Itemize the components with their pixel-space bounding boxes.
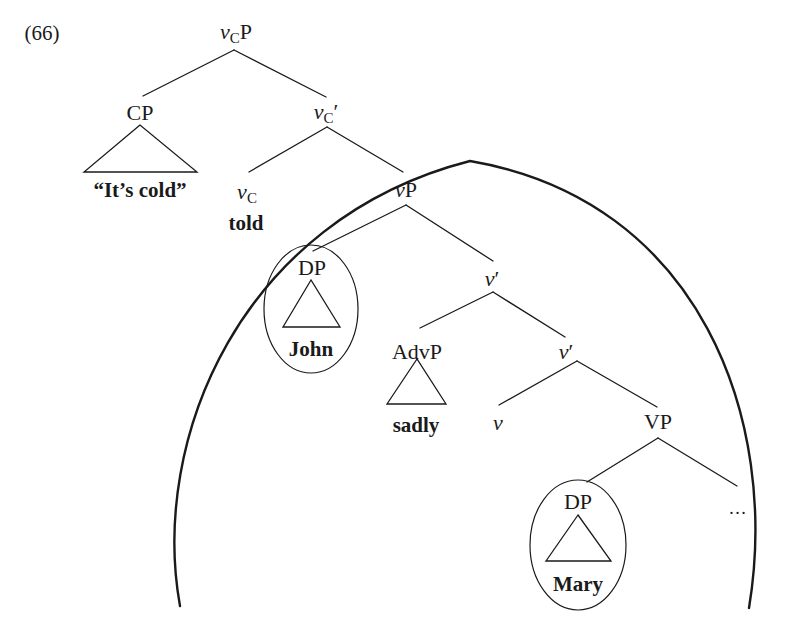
syntax-tree-diagram: (66) vCP CP “It’s cold” vC′ vC told vP D…	[0, 0, 787, 643]
terminal-its-cold: “It’s cold”	[93, 180, 186, 201]
branch-vcp-vcbar	[234, 50, 326, 97]
node-vcp-v: v	[220, 19, 230, 44]
node-vc-bar-sub: C	[323, 110, 333, 126]
branch-vp-ellipsis	[658, 438, 737, 486]
triangle-dp-john	[283, 280, 340, 327]
node-advp: AdvP	[392, 341, 442, 363]
node-v-bar-1-prime: ′	[494, 266, 499, 291]
branch-vcp-cp	[143, 50, 234, 96]
node-ellipsis: …	[729, 499, 748, 517]
node-v-bar-2-prime: ′	[568, 339, 573, 364]
node-v-bar-2: v′	[559, 341, 574, 363]
node-dp-subject: DP	[298, 257, 326, 279]
terminal-mary: Mary	[553, 574, 603, 595]
triangle-cp	[84, 125, 197, 172]
example-number: (66)	[25, 23, 60, 44]
node-vc-bar-prime: ′	[333, 99, 338, 124]
branch-vp-vbar	[406, 205, 493, 261]
node-vc-bar: vC′	[314, 101, 339, 126]
node-v-bar-2-v: v	[559, 339, 569, 364]
node-vc-head-sub: C	[247, 190, 257, 206]
branch-vcbar-vc	[249, 127, 327, 172]
branch-vp-dp-object	[587, 438, 658, 482]
node-vp: VP	[644, 411, 672, 433]
tree-branches	[0, 0, 787, 643]
node-dp-object: DP	[564, 491, 592, 513]
node-little-vp-p: P	[405, 177, 417, 202]
terminal-told: told	[228, 213, 263, 234]
node-v-head: v	[493, 412, 503, 434]
branch-vbar2-vp	[577, 361, 657, 407]
branch-vbar1-advp	[420, 292, 493, 328]
triangle-dp-mary	[546, 515, 611, 561]
node-little-vp: vP	[395, 179, 417, 201]
node-vc-head-v: v	[237, 179, 247, 204]
node-vc-head: vC	[237, 181, 257, 206]
node-vcp: vCP	[220, 21, 252, 46]
node-v-bar-1-v: v	[485, 266, 495, 291]
branch-vcbar-vp	[327, 127, 403, 172]
node-vcp-p: P	[240, 19, 252, 44]
node-vcp-sub: C	[230, 30, 240, 46]
node-v-bar-1: v′	[485, 268, 500, 290]
node-cp: CP	[127, 102, 154, 124]
node-little-vp-v: v	[395, 177, 405, 202]
node-vc-bar-v: v	[314, 99, 324, 124]
branch-vbar2-v	[499, 361, 577, 405]
terminal-sadly: sadly	[393, 415, 440, 436]
branch-vbar1-vbar2	[493, 292, 565, 337]
triangle-advp	[387, 359, 446, 404]
terminal-john: John	[289, 339, 333, 360]
